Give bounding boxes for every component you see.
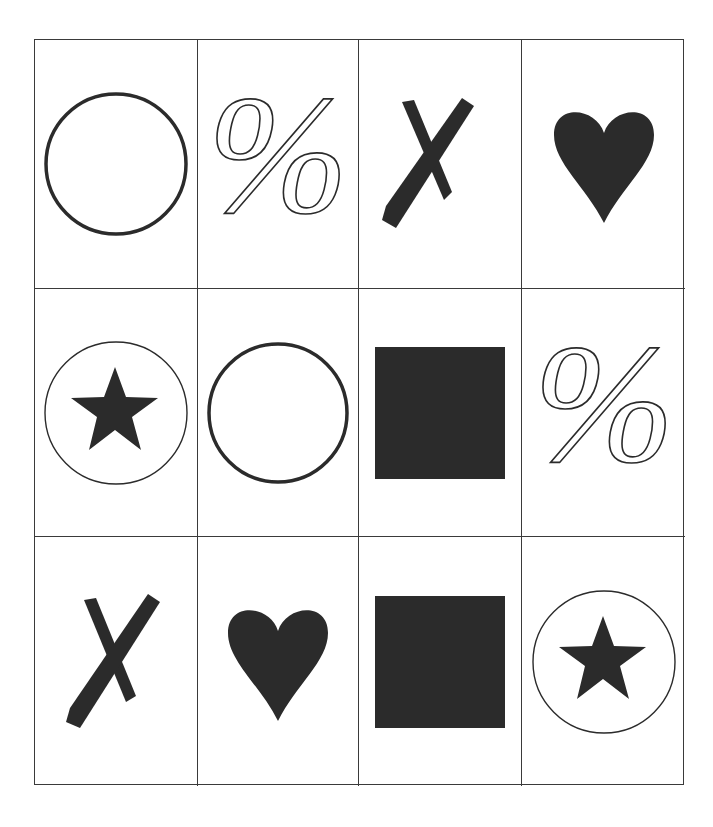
svg-text:%: % (534, 343, 674, 483)
star-in-circle-icon (43, 339, 189, 487)
grid-cell-r1c1: Circle (35, 40, 198, 289)
grid-cell-r3c2: Heart (198, 537, 359, 786)
grid-cell-r2c4: Percent % (522, 289, 685, 537)
grid-cell-r3c1: X (35, 537, 198, 786)
grid-cell-r1c2: Percent % (198, 40, 359, 289)
heart-icon (552, 103, 656, 225)
square-filled-icon (374, 346, 506, 480)
circle-outline-icon (206, 340, 350, 486)
grid-cell-r3c3: Square (359, 537, 522, 786)
circle-outline-icon (43, 91, 189, 237)
symbol-grid: Circle Percent % X Heart Star in circle … (34, 39, 684, 785)
percent-outline-icon: % (208, 94, 348, 234)
x-brush-icon (56, 592, 176, 732)
star-in-circle-icon (531, 588, 677, 736)
grid-cell-r1c3: X (359, 40, 522, 289)
x-brush-icon (380, 94, 500, 234)
grid-cell-r1c4: Heart (522, 40, 685, 289)
heart-icon (226, 601, 330, 723)
grid-cell-r2c1: Star in circle (35, 289, 198, 537)
percent-outline-icon: % (534, 343, 674, 483)
square-filled-icon (374, 595, 506, 729)
grid-cell-r2c2: Circle (198, 289, 359, 537)
grid-cell-r3c4: Star in circle (522, 537, 685, 786)
grid-cell-r2c3: Square (359, 289, 522, 537)
svg-text:%: % (208, 94, 348, 234)
